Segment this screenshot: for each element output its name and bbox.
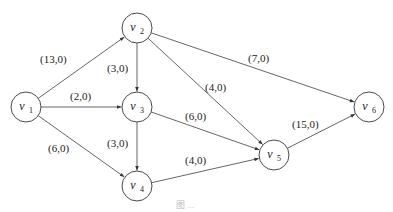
- node-label: v: [130, 178, 136, 192]
- node-circle: [122, 13, 152, 43]
- figure-caption: 图 ...: [176, 200, 194, 210]
- node-subscript: 2: [140, 27, 144, 36]
- node-circle: [122, 171, 152, 201]
- edge-label-v2-v6: (7,0): [248, 52, 269, 65]
- node-v6: v6: [354, 92, 384, 122]
- node-label: v: [362, 99, 368, 113]
- node-circle: [122, 92, 152, 122]
- edge-label-v2-v3: (3,0): [107, 62, 128, 75]
- node-v2: v2: [122, 13, 152, 43]
- edge-label-v1-v3: (2,0): [70, 90, 91, 103]
- edge-label-v4-v5: (4,0): [185, 154, 206, 167]
- node-subscript: 6: [372, 106, 376, 115]
- node-circle: [11, 92, 41, 122]
- node-label: v: [130, 99, 136, 113]
- node-subscript: 1: [29, 106, 33, 115]
- node-label: v: [267, 147, 273, 161]
- edge-arrow: [151, 33, 354, 102]
- node-label: v: [19, 99, 25, 113]
- edge-label-v1-v4: (6,0): [48, 142, 69, 155]
- edge-label-v2-v5: (4,0): [205, 81, 226, 94]
- node-v3: v3: [122, 92, 152, 122]
- node-v4: v4: [122, 171, 152, 201]
- edge-v2-v6: [151, 33, 354, 102]
- edge-label-v3-v4: (3,0): [107, 137, 128, 150]
- edge-label-v1-v2: (13,0): [40, 53, 67, 66]
- node-v5: v5: [259, 140, 289, 170]
- node-circle: [354, 92, 384, 122]
- node-label: v: [130, 20, 136, 34]
- node-v1: v1: [11, 92, 41, 122]
- node-subscript: 4: [140, 185, 144, 194]
- network-flow-diagram: (13,0)(2,0)(6,0)(3,0)(4,0)(7,0)(3,0)(6,0…: [0, 0, 393, 212]
- node-subscript: 3: [140, 106, 144, 115]
- edge-label-v5-v6: (15,0): [292, 118, 319, 131]
- node-circle: [259, 140, 289, 170]
- edge-label-v3-v5: (6,0): [185, 110, 206, 123]
- node-subscript: 5: [277, 154, 281, 163]
